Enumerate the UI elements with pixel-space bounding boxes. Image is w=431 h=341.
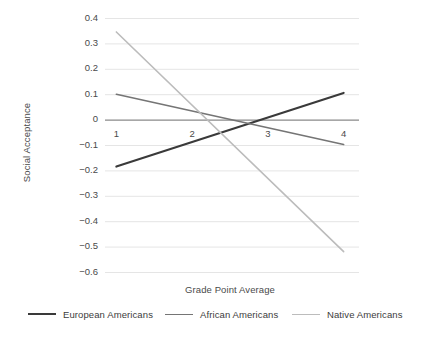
legend-label: European Americans bbox=[63, 309, 153, 320]
legend-line-swatch-icon bbox=[28, 313, 56, 315]
legend-item[interactable]: African Americans bbox=[165, 305, 278, 323]
gridlines bbox=[105, 19, 359, 273]
series-line-native-americans bbox=[116, 32, 343, 252]
plot-area bbox=[0, 0, 431, 341]
series-line-european-americans bbox=[116, 93, 343, 167]
legend-item[interactable]: Native Americans bbox=[292, 305, 403, 323]
series-line-african-americans bbox=[116, 94, 343, 144]
chart-legend: European AmericansAfrican AmericansNativ… bbox=[0, 305, 431, 325]
line-chart: Social Acceptance Grade Point Average 0.… bbox=[0, 0, 431, 341]
legend-label: Native Americans bbox=[327, 309, 403, 320]
legend-item[interactable]: European Americans bbox=[28, 305, 153, 323]
legend-line-swatch-icon bbox=[165, 314, 193, 315]
legend-label: African Americans bbox=[200, 309, 278, 320]
legend-line-swatch-icon bbox=[292, 314, 320, 315]
series-lines bbox=[116, 32, 343, 252]
